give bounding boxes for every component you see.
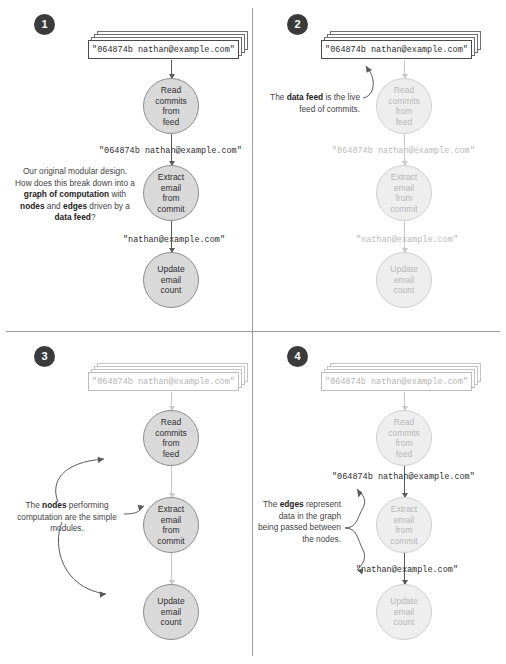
- node-line: from: [163, 106, 180, 117]
- edge-label-commit: "064874b nathan@example.com": [99, 146, 242, 156]
- annotation-panel-1: Our original modular design. How does th…: [14, 166, 136, 224]
- node-line: email: [161, 183, 181, 194]
- node-line: Update: [157, 264, 184, 275]
- feed-card-front: "064874b nathan@example.com": [88, 40, 239, 59]
- leader-line-data-feed: [253, 0, 506, 332]
- node-line: email: [161, 275, 181, 286]
- node-line: count: [161, 285, 182, 296]
- data-feed-stack: "064874b nathan@example.com": [88, 31, 248, 61]
- node-extract-email: Extract email from commit: [143, 165, 199, 221]
- node-line: commit: [157, 204, 184, 215]
- node-read-commits: Read commits from feed: [143, 78, 199, 134]
- connector-feed-to-read: [171, 60, 172, 78]
- node-line: commits: [155, 96, 187, 107]
- leader-lines-nodes: [0, 332, 253, 664]
- figure-sheet: 1 "064874b nathan@example.com" Read comm…: [0, 0, 506, 664]
- panel-1: 1 "064874b nathan@example.com" Read comm…: [0, 0, 253, 332]
- panel-2: 2 "064874b nathan@example.com" Read comm…: [253, 0, 506, 332]
- panel-3: 3 "064874b nathan@example.com" Read comm…: [0, 332, 253, 664]
- node-line: feed: [163, 117, 180, 128]
- leader-lines-edges: [253, 332, 506, 664]
- node-line: from: [163, 193, 180, 204]
- node-line: Read: [161, 85, 181, 96]
- node-update-count: Update email count: [143, 252, 199, 308]
- panel-4: 4 "064874b nathan@example.com" Read comm…: [253, 332, 506, 664]
- panel-number-badge: 1: [34, 14, 55, 35]
- node-line: Extract: [158, 172, 184, 183]
- edge-label-email: "nathan@example.com": [123, 235, 225, 245]
